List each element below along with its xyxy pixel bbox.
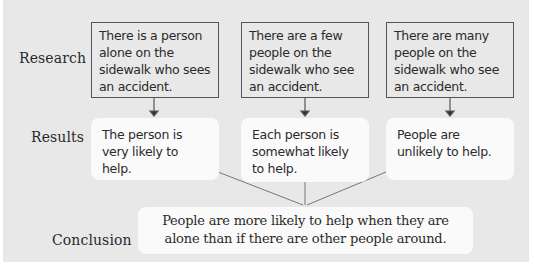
row-label-research: Research [19,50,86,66]
result-box-many: People are unlikely to help. [386,118,514,180]
research-box-few: There are a few people on the sidewalk w… [241,22,369,98]
research-box-alone: There is a person alone on the sidewalk … [91,22,219,98]
result-box-few: Each person is somewhat likely to help. [241,118,369,182]
research-box-many: There are many people on the sidewalk wh… [386,22,514,98]
arrow-head-3 [446,111,454,116]
arrow-head-2 [301,111,309,116]
result-box-alone: The person is very likely to help. [91,118,219,180]
row-label-conclusion: Conclusion [52,232,132,248]
row-label-results: Results [31,129,84,145]
arrow-head-1 [150,111,158,116]
conclusion-box: People are more likely to help when they… [138,207,473,254]
